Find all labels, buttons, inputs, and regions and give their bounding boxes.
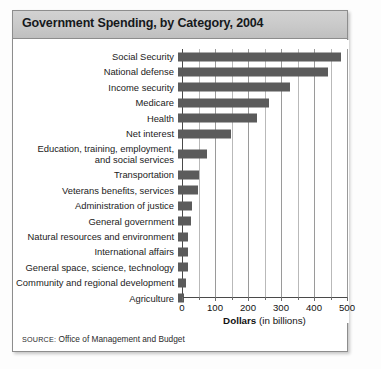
table-row: General government xyxy=(13,214,349,229)
bar-track xyxy=(178,244,349,259)
table-row: General space, science, technology xyxy=(13,260,349,275)
table-row: Veterans benefits, services xyxy=(13,183,349,198)
table-row: Net interest xyxy=(13,126,349,141)
bar-track xyxy=(178,229,349,244)
bar xyxy=(178,52,341,61)
page-title: Government Spending, by Category, 2004 xyxy=(22,16,263,30)
bar-track xyxy=(178,49,349,64)
bar xyxy=(178,247,188,256)
x-axis-tick-label: 200 xyxy=(240,302,256,313)
x-axis-tick-label: 300 xyxy=(273,302,289,313)
bar xyxy=(178,68,328,77)
x-axis-tick xyxy=(331,297,332,300)
bar-category-label: Net interest xyxy=(13,128,178,139)
bar xyxy=(178,83,290,92)
bar xyxy=(178,129,231,138)
table-row: Administration of justice xyxy=(13,198,349,213)
bar xyxy=(178,186,198,195)
x-axis-tick xyxy=(232,297,233,300)
bar-category-label: Agriculture xyxy=(13,293,178,304)
x-axis-tick xyxy=(314,297,315,301)
table-row: International affairs xyxy=(13,244,349,259)
bar-track xyxy=(178,126,349,141)
bar-track xyxy=(178,95,349,110)
bar-track xyxy=(178,80,349,95)
bar-track xyxy=(178,167,349,182)
bar-category-label: Veterans benefits, services xyxy=(13,185,178,196)
table-row: Medicare xyxy=(13,95,349,110)
bar xyxy=(178,201,192,210)
bar-track xyxy=(178,183,349,198)
page-root: Government Spending, by Category, 2004 S… xyxy=(0,0,381,369)
x-axis-tick xyxy=(298,297,299,300)
x-axis-tick-label: 500 xyxy=(339,302,355,313)
source-note: SOURCE: Office of Management and Budget xyxy=(22,334,185,344)
table-row: Health xyxy=(13,111,349,126)
bar xyxy=(178,232,188,241)
bar-track xyxy=(178,64,349,79)
bar-category-label: Natural resources and environment xyxy=(13,231,178,242)
source-label: SOURCE: xyxy=(22,335,56,344)
bar xyxy=(178,171,199,180)
bar-category-label: National defense xyxy=(13,66,178,77)
bar-category-label: General government xyxy=(13,216,178,227)
bar-category-label: Education, training, employment, and soc… xyxy=(13,143,178,165)
x-axis-tick-label: 0 xyxy=(179,302,184,313)
bar-category-label: International affairs xyxy=(13,246,178,257)
table-row: National defense xyxy=(13,64,349,79)
bar xyxy=(178,278,186,287)
bar xyxy=(178,114,257,123)
bar-category-label: Social Security xyxy=(13,51,178,62)
x-axis-tick xyxy=(281,297,282,301)
x-axis-tick-label: 100 xyxy=(207,302,223,313)
bar-category-label: General space, science, technology xyxy=(13,262,178,273)
bar-track xyxy=(178,260,349,275)
chart-bar-rows: Social SecurityNational defenseIncome se… xyxy=(13,49,349,306)
bar-track xyxy=(178,141,349,167)
bar xyxy=(178,263,188,272)
bar-category-label: Transportation xyxy=(13,169,178,180)
x-axis-tick xyxy=(265,297,266,300)
table-row: Social Security xyxy=(13,49,349,64)
bar xyxy=(178,98,269,107)
bar xyxy=(178,150,207,159)
chart-plot-area: Social SecurityNational defenseIncome se… xyxy=(13,40,349,323)
x-axis-title: Dollars (in billions) xyxy=(182,315,347,326)
table-row: Transportation xyxy=(13,167,349,182)
table-row: Income security xyxy=(13,80,349,95)
source-text: Office of Management and Budget xyxy=(56,334,185,344)
chart-title-band: Government Spending, by Category, 2004 xyxy=(13,11,347,39)
x-axis-tick xyxy=(248,297,249,301)
bar-track xyxy=(178,214,349,229)
bar-category-label: Health xyxy=(13,113,178,124)
x-axis-tick xyxy=(347,297,348,301)
bar-track xyxy=(178,275,349,290)
table-row: Education, training, employment, and soc… xyxy=(13,141,349,167)
table-row: Natural resources and environment xyxy=(13,229,349,244)
bar-category-label: Community and regional development xyxy=(13,277,178,288)
x-axis-tick xyxy=(215,297,216,301)
bar-category-label: Medicare xyxy=(13,97,178,108)
bar-category-label: Income security xyxy=(13,82,178,93)
x-axis-title-bold: Dollars xyxy=(223,315,256,326)
bar-track xyxy=(178,111,349,126)
bar xyxy=(178,217,191,226)
bar-track xyxy=(178,198,349,213)
x-axis-tick xyxy=(199,297,200,300)
table-row: Community and regional development xyxy=(13,275,349,290)
x-axis-title-rest: (in billions) xyxy=(256,315,306,326)
x-axis-tick xyxy=(182,297,183,301)
x-axis-tick-label: 400 xyxy=(306,302,322,313)
bar-category-label: Administration of justice xyxy=(13,200,178,211)
chart-card: Government Spending, by Category, 2004 S… xyxy=(12,10,348,352)
